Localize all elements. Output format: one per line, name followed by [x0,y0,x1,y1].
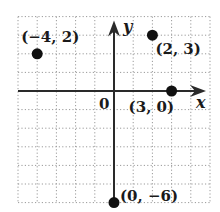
point-label: (−4, 2) [21,28,79,46]
data-point: (−4, 2) [21,28,79,60]
point-label: (3, 0) [129,98,175,116]
point-label: (2, 3) [155,40,201,58]
data-point: (2, 3) [147,30,201,59]
data-point: (0, −6) [109,187,179,209]
data-points: (−4, 2)(2, 3)(3, 0)(0, −6) [21,28,201,208]
origin-label: 0 [99,95,109,113]
point-marker [109,197,120,208]
x-axis-label: x [195,93,206,112]
point-marker [147,30,158,41]
point-marker [166,86,177,97]
point-marker [32,48,43,59]
y-axis-label: y [122,17,134,36]
point-label: (0, −6) [120,187,178,205]
coordinate-plane: x y 0 (−4, 2)(2, 3)(3, 0)(0, −6) [0,0,220,212]
